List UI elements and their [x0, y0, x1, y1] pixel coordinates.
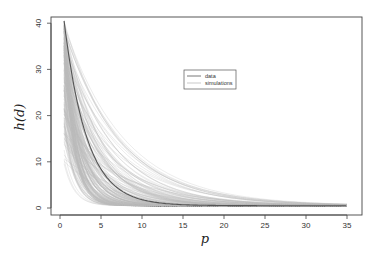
x-tick-label: 10: [138, 221, 147, 230]
legend: data simulations: [184, 70, 236, 89]
y-tick-label: 0: [34, 205, 43, 210]
y-tick-label: 10: [34, 157, 43, 166]
x-tick-label: 15: [179, 221, 188, 230]
x-tick-label: 5: [99, 221, 104, 230]
y-tick-label: 20: [34, 111, 43, 120]
x-axis: 05101520253035: [58, 215, 352, 230]
x-tick-label: 35: [343, 221, 352, 230]
x-tick-label: 0: [58, 221, 63, 230]
legend-simulations-label: simulations: [205, 80, 233, 86]
x-axis-title: p: [201, 231, 210, 246]
y-axis: 010203040: [34, 18, 51, 210]
x-tick-label: 20: [220, 221, 229, 230]
legend-data-label: data: [205, 73, 217, 79]
y-axis-title: h(d): [12, 104, 27, 131]
y-tick-label: 30: [34, 64, 43, 73]
x-tick-label: 30: [302, 221, 311, 230]
x-tick-label: 25: [261, 221, 270, 230]
y-tick-label: 40: [34, 18, 43, 27]
chart: 05101520253035 010203040 p h(d) data sim…: [0, 0, 381, 256]
simulation-curves: [64, 21, 347, 206]
